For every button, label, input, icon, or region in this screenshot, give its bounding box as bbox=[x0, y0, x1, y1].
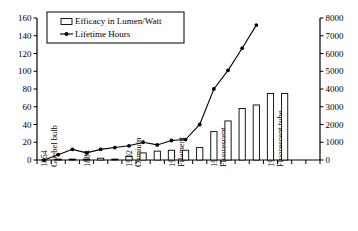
bar bbox=[154, 151, 160, 160]
line-series-marker bbox=[141, 140, 145, 144]
legend-label-efficacy: Efficacy in Lumen/Watt bbox=[75, 16, 162, 26]
right-axis-tick-label: 7000 bbox=[326, 31, 345, 41]
right-axis-tick-label: 4000 bbox=[326, 84, 345, 94]
line-series-marker bbox=[212, 87, 216, 91]
line-series-marker bbox=[70, 147, 74, 151]
bar bbox=[126, 156, 132, 160]
bar bbox=[282, 93, 288, 160]
bar bbox=[267, 93, 273, 160]
left-axis-tick-label: 80 bbox=[23, 84, 33, 94]
right-axis-tick-label: 3000 bbox=[326, 102, 345, 112]
line-series-marker bbox=[127, 144, 131, 148]
left-axis-tick-label: 40 bbox=[23, 120, 33, 130]
bar bbox=[211, 132, 217, 160]
left-axis-tick-label: 60 bbox=[23, 102, 33, 112]
left-axis-tick-label: 100 bbox=[18, 66, 32, 76]
bar bbox=[182, 150, 188, 160]
bar bbox=[83, 159, 89, 160]
right-axis-tick-label: 8000 bbox=[326, 13, 345, 23]
left-axis-tick-label: 120 bbox=[18, 49, 32, 59]
bar bbox=[112, 159, 118, 160]
left-axis-tick-label: 160 bbox=[18, 13, 32, 23]
line-series-marker bbox=[42, 158, 46, 162]
efficacy-lifetime-chart: 0204060801001201401600100020003000400050… bbox=[0, 0, 358, 231]
legend-label-lifetime: Lifetime Hours bbox=[75, 29, 131, 39]
line-series-marker bbox=[170, 139, 174, 143]
bar bbox=[140, 153, 146, 160]
chart-container: 0204060801001201401600100020003000400050… bbox=[0, 0, 358, 231]
bar bbox=[69, 159, 75, 160]
line-series-marker bbox=[240, 46, 244, 50]
line-series-marker bbox=[99, 147, 103, 151]
bar bbox=[55, 159, 61, 160]
line-series-marker bbox=[155, 143, 159, 147]
bar bbox=[98, 158, 104, 160]
line-series-marker bbox=[85, 151, 89, 155]
bar bbox=[253, 105, 259, 160]
left-axis-tick-label: 20 bbox=[23, 137, 33, 147]
right-axis-tick-label: 0 bbox=[326, 155, 331, 165]
bar bbox=[197, 148, 203, 160]
line-series-marker bbox=[254, 23, 258, 27]
left-axis-tick-label: 0 bbox=[27, 155, 32, 165]
right-axis-tick-label: 6000 bbox=[326, 49, 345, 59]
bar bbox=[225, 121, 231, 160]
bar bbox=[239, 109, 245, 160]
line-series-marker bbox=[198, 123, 202, 127]
line-series-marker bbox=[226, 68, 230, 72]
line-series-marker bbox=[56, 153, 60, 157]
legend-marker-icon bbox=[65, 32, 69, 36]
bar bbox=[168, 150, 174, 160]
line-series-marker bbox=[113, 146, 117, 150]
right-axis-tick-label: 5000 bbox=[326, 66, 345, 76]
x-axis-category-label: Goebel bulb bbox=[49, 125, 59, 167]
line-series-marker bbox=[184, 138, 188, 142]
left-axis-tick-label: 140 bbox=[18, 31, 32, 41]
legend-bar-swatch-icon bbox=[61, 19, 72, 25]
right-axis-tick-label: 2000 bbox=[326, 120, 345, 130]
right-axis-tick-label: 1000 bbox=[326, 137, 345, 147]
